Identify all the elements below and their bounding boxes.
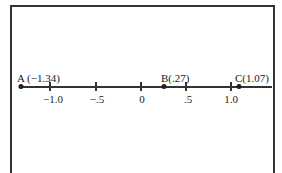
point-a-label: A (−1.34) — [17, 72, 60, 84]
point-a-marker — [19, 84, 24, 89]
tick-label-1: 1.0 — [224, 93, 238, 105]
point-b-label: B(.27) — [161, 72, 189, 84]
tick-0 — [140, 82, 142, 91]
tick-label-0: 0 — [139, 93, 145, 105]
tick-label-neg-0-5: −.5 — [90, 93, 104, 105]
tick-label-0-5: .5 — [184, 93, 192, 105]
point-c-marker — [237, 84, 242, 89]
number-line-axis — [20, 86, 272, 88]
point-b-marker — [162, 84, 167, 89]
tick-1 — [230, 82, 232, 91]
point-c-label: C(1.07) — [235, 72, 269, 84]
tick-neg-0-5 — [95, 82, 97, 91]
tick-label-neg-1: −1.0 — [43, 93, 63, 105]
